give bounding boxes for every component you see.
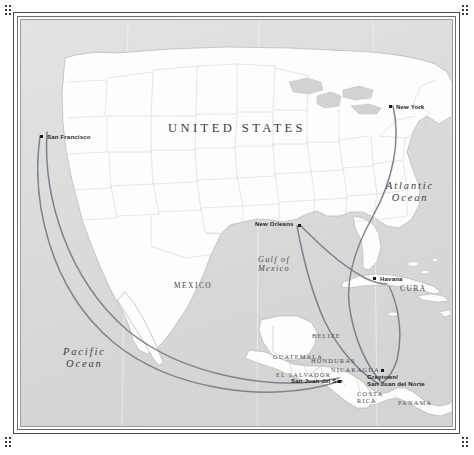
map-graphic bbox=[21, 20, 452, 426]
registration-mark-top-right bbox=[462, 5, 469, 14]
registration-mark-bottom-right bbox=[462, 437, 469, 446]
historical-route-map: UNITED STATES PacificOceanAtlanticOceanG… bbox=[0, 0, 474, 455]
registration-mark-bottom-left bbox=[5, 437, 12, 446]
map-plate bbox=[21, 20, 452, 426]
jamaica-island bbox=[388, 312, 398, 316]
registration-mark-top-left bbox=[5, 5, 12, 14]
